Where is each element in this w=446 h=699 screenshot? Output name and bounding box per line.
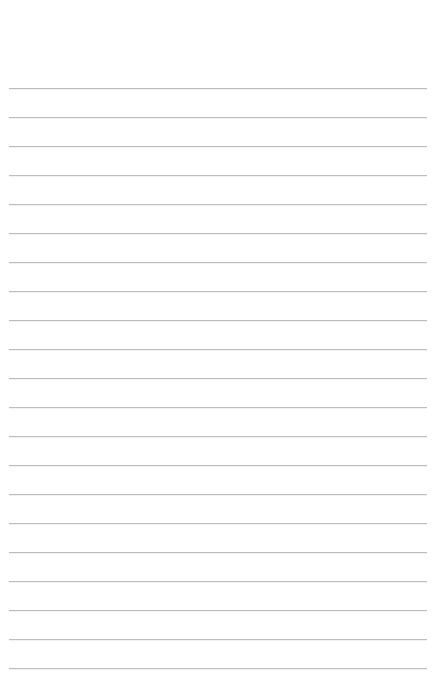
ruled-line: [9, 204, 427, 205]
ruled-line: [9, 146, 427, 147]
ruled-line: [9, 233, 427, 234]
ruled-line: [9, 262, 427, 263]
ruled-line: [9, 436, 427, 437]
ruled-line: [9, 175, 427, 176]
ruled-line: [9, 117, 427, 118]
ruled-line: [9, 639, 427, 640]
ruled-line: [9, 552, 427, 553]
lined-paper-page: [0, 0, 446, 699]
ruled-line: [9, 88, 427, 89]
ruled-line: [9, 668, 427, 669]
ruled-line: [9, 291, 427, 292]
ruled-line: [9, 320, 427, 321]
ruled-line: [9, 494, 427, 495]
ruled-line: [9, 610, 427, 611]
ruled-line: [9, 349, 427, 350]
ruled-line: [9, 465, 427, 466]
ruled-line: [9, 581, 427, 582]
ruled-line: [9, 378, 427, 379]
ruled-line: [9, 523, 427, 524]
ruled-line: [9, 407, 427, 408]
